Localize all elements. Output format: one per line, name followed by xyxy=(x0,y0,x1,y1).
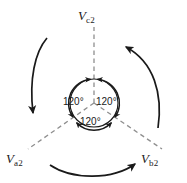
angle-label-left: 120° xyxy=(63,97,84,107)
phasor-symbol-va2: V xyxy=(6,151,14,166)
phasor-symbol-vc2: V xyxy=(78,8,86,23)
angle-label-bottom: 120° xyxy=(80,117,101,127)
rotation-arrow-bottom xyxy=(50,164,135,176)
phasor-line-vb2 xyxy=(94,103,162,149)
phasor-label-vc2: Vc2 xyxy=(78,9,95,25)
rotation-arrow-right xyxy=(126,47,159,128)
angle-label-right: 120° xyxy=(96,97,117,107)
phasor-subscript-va2: a2 xyxy=(14,158,23,168)
phasor-diagram: Vc2 Va2 Vb2 120° 120° 120° xyxy=(0,0,187,183)
phasor-subscript-vc2: c2 xyxy=(86,15,95,25)
rotation-arrow-left xyxy=(32,38,47,113)
phasor-diagram-canvas xyxy=(0,0,187,183)
phasor-symbol-vb2: V xyxy=(141,151,149,166)
phasor-subscript-vb2: b2 xyxy=(149,158,158,168)
phasor-label-vb2: Vb2 xyxy=(141,152,158,168)
phasor-label-va2: Va2 xyxy=(6,152,23,168)
